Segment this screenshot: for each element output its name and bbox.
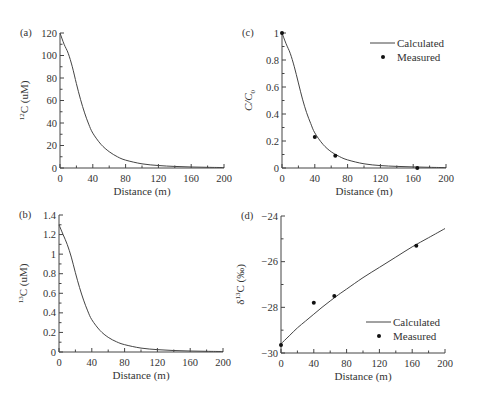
y-tick-label: 0.2 — [266, 136, 279, 147]
panel-c-chart: 0408012016020000.20.40.60.81Distance (m)… — [242, 27, 454, 198]
legend-point-swatch — [377, 334, 381, 338]
y-tick-label: 1 — [51, 249, 56, 260]
legend-point-swatch — [381, 55, 385, 59]
x-tick-label: 80 — [120, 173, 131, 184]
calculated-curve — [60, 33, 224, 168]
x-tick-label: 160 — [182, 357, 198, 368]
y-tick-label: 0.4 — [43, 307, 57, 318]
y-tick-label: 0.6 — [266, 82, 279, 93]
legend-label-measured: Measured — [397, 51, 441, 63]
x-tick-label: 200 — [438, 173, 454, 184]
x-tick-label: 80 — [119, 357, 130, 368]
x-tick-label: 160 — [404, 358, 420, 369]
x-tick-label: 200 — [437, 358, 453, 369]
y-tick-label: 80 — [47, 73, 58, 84]
y-tick-label: 40 — [47, 118, 58, 129]
panel-label: (c) — [242, 27, 254, 39]
measured-point — [279, 343, 283, 347]
y-tick-label: 120 — [41, 28, 57, 39]
x-axis-label: Distance (m) — [112, 369, 169, 382]
x-tick-label: 0 — [278, 358, 283, 369]
x-tick-label: 120 — [372, 358, 388, 369]
y-tick-label: 60 — [47, 95, 58, 106]
y-tick-label: −24 — [262, 211, 279, 222]
x-tick-label: 80 — [342, 173, 353, 184]
x-axis-label: Distance (m) — [334, 370, 391, 383]
figure: 04080120160200020406080100120Distance (m… — [0, 0, 477, 402]
x-axis-label: Distance (m) — [113, 185, 170, 198]
x-tick-label: 40 — [87, 357, 98, 368]
y-label-rest: C (‰) — [234, 264, 247, 293]
x-tick-label: 40 — [88, 173, 99, 184]
measured-point — [332, 294, 336, 298]
measured-point — [312, 301, 316, 305]
measured-point — [414, 244, 418, 248]
y-tick-label: 0.8 — [43, 268, 56, 279]
y-axis-label: C/C0 — [242, 89, 257, 111]
panel-a-chart: 04080120160200020406080100120Distance (m… — [18, 27, 232, 198]
legend-label-calculated: Calculated — [397, 37, 445, 49]
x-axis-label: Distance (m) — [335, 185, 392, 198]
y-label-main: C (uM) — [17, 263, 30, 296]
legend-label-calculated: Calculated — [393, 316, 441, 328]
panel-b-chart: 0408012016020000.20.40.60.811.21.4Distan… — [17, 209, 231, 382]
x-tick-label: 200 — [215, 357, 231, 368]
y-tick-label: 20 — [47, 140, 58, 151]
y-label-main: C/C — [242, 93, 254, 111]
calculated-curve — [59, 225, 223, 352]
x-tick-label: 0 — [56, 357, 61, 368]
y-label-main: C (uM) — [18, 80, 31, 113]
y-tick-label: 0 — [274, 163, 279, 174]
measured-point — [280, 31, 284, 35]
y-tick-label: 1.2 — [43, 229, 56, 240]
x-tick-label: 200 — [216, 173, 232, 184]
y-tick-label: 100 — [41, 50, 57, 61]
y-tick-label: 1 — [274, 28, 279, 39]
y-tick-label: 0.8 — [266, 55, 279, 66]
measured-point — [313, 135, 317, 139]
x-tick-label: 80 — [341, 358, 352, 369]
y-tick-label: 0.6 — [43, 288, 56, 299]
y-label-subscript: 0 — [249, 89, 257, 93]
y-axis-label: δ13C (‰) — [234, 264, 247, 305]
panel-label: (b) — [19, 209, 32, 221]
panel-label: (d) — [241, 210, 254, 222]
x-tick-label: 0 — [279, 173, 284, 184]
x-tick-label: 120 — [373, 173, 389, 184]
y-axis-label: 12C (uM) — [18, 80, 31, 120]
y-tick-label: 0 — [52, 163, 57, 174]
x-tick-label: 160 — [405, 173, 421, 184]
y-tick-label: −26 — [262, 256, 278, 267]
y-tick-label: 1.4 — [43, 210, 57, 221]
y-tick-label: −30 — [262, 348, 278, 359]
y-tick-label: 0.2 — [43, 327, 56, 338]
y-tick-label: 0.4 — [266, 109, 280, 120]
y-tick-label: −28 — [262, 302, 278, 313]
x-tick-label: 120 — [151, 173, 167, 184]
x-tick-label: 160 — [183, 173, 199, 184]
y-tick-label: 0 — [51, 347, 56, 358]
panel-label: (a) — [20, 27, 32, 39]
x-tick-label: 0 — [57, 173, 62, 184]
measured-point — [333, 154, 337, 158]
x-tick-label: 40 — [310, 173, 321, 184]
x-tick-label: 120 — [150, 357, 166, 368]
legend-label-measured: Measured — [393, 330, 437, 342]
panel-d-chart: 04080120160200−30−28−26−24Distance (m)(d… — [234, 210, 453, 383]
y-axis-label: 13C (uM) — [17, 263, 30, 303]
measured-point — [415, 166, 419, 170]
x-tick-label: 40 — [309, 358, 320, 369]
